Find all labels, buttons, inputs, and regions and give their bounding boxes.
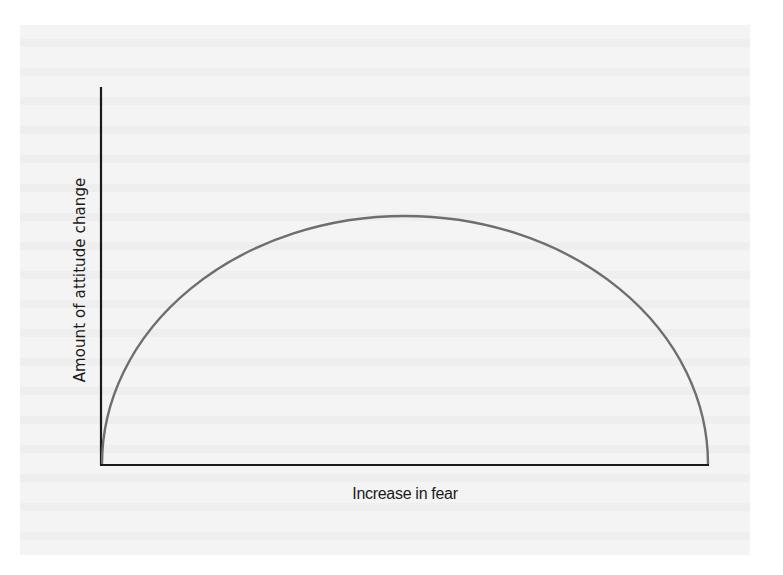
y-axis-label: Amount of attitude change	[71, 178, 89, 383]
attitude-change-curve	[102, 216, 708, 464]
x-axis-label: Increase in fear	[352, 485, 457, 503]
